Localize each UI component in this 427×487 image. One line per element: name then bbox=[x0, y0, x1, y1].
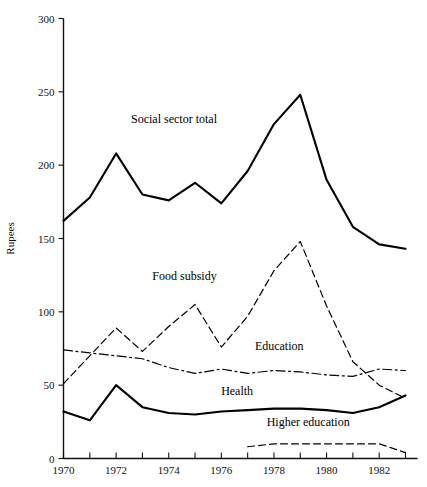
series-label-health: Health bbox=[221, 384, 253, 398]
y-tick-label: 100 bbox=[38, 306, 55, 318]
y-tick-label: 250 bbox=[38, 86, 55, 98]
series-label-education: Education bbox=[255, 339, 304, 353]
series-label-higher-education: Higher education bbox=[267, 415, 350, 429]
x-tick-label: 1982 bbox=[368, 464, 390, 476]
x-tick-label: 1974 bbox=[158, 464, 181, 476]
y-tick-label: 150 bbox=[38, 233, 55, 245]
y-axis-title: Rupees bbox=[4, 222, 16, 254]
x-tick-label: 1970 bbox=[53, 464, 76, 476]
series-label-food-subsidy: Food subsidy bbox=[152, 269, 216, 283]
chart-series-group bbox=[64, 95, 406, 453]
x-tick-label: 1976 bbox=[210, 464, 233, 476]
x-axis-ticks: 1970197219741976197819801982 bbox=[53, 453, 406, 476]
y-tick-label: 50 bbox=[44, 379, 56, 391]
x-tick-label: 1980 bbox=[316, 464, 339, 476]
y-axis-ticks: 050100150200250300 bbox=[38, 13, 64, 465]
y-tick-label: 200 bbox=[38, 159, 55, 171]
x-tick-label: 1978 bbox=[263, 464, 286, 476]
chart-figure: 050100150200250300 197019721974197619781… bbox=[0, 0, 427, 487]
series-label-group: Social sector totalFood subsidyEducation… bbox=[131, 112, 350, 430]
x-tick-label: 1972 bbox=[105, 464, 127, 476]
series-line-food-subsidy bbox=[64, 241, 406, 398]
series-label-social-sector-total: Social sector total bbox=[131, 112, 218, 126]
series-line-social-sector-total bbox=[64, 95, 406, 249]
line-chart-svg: 050100150200250300 197019721974197619781… bbox=[0, 0, 427, 487]
y-tick-label: 300 bbox=[38, 13, 55, 25]
series-line-higher-education bbox=[248, 444, 406, 453]
